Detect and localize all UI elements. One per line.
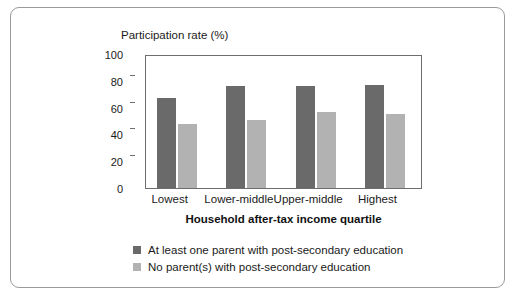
legend-label: At least one parent with post-secondary …: [148, 244, 403, 256]
x-axis-tick-label: Highest: [343, 193, 412, 205]
y-axis-tick-label: 80: [111, 76, 123, 88]
y-axis-tick-mark: [130, 75, 135, 76]
bar-series2: [178, 124, 197, 188]
legend-item: No parent(s) with post-secondary educati…: [133, 258, 403, 275]
bar-group: [215, 56, 284, 188]
chart-legend: At least one parent with post-secondary …: [133, 241, 403, 275]
x-axis-tick-label: Lower-middle: [204, 193, 273, 205]
bar-series2: [317, 112, 336, 188]
bar-group: [146, 56, 215, 188]
chart-title: Participation rate (%): [121, 29, 228, 41]
y-axis-tick-label: 100: [105, 49, 123, 61]
x-axis-title: Household after-tax income quartile: [145, 213, 422, 225]
y-axis-tick-label: 40: [111, 129, 123, 141]
chart-figure-frame: Participation rate (%) Household after-t…: [10, 7, 505, 288]
y-axis-tick-mark: [130, 155, 135, 156]
x-axis-tick-label: Lowest: [135, 193, 204, 205]
plot-area: [145, 55, 422, 189]
bar-series2: [386, 114, 405, 188]
y-axis-tick-label: 20: [111, 156, 123, 168]
y-axis-tick-label: 60: [111, 103, 123, 115]
bar-series1: [157, 98, 176, 188]
bar-series1: [365, 85, 384, 188]
legend-swatch-icon: [133, 246, 141, 254]
bar-groups: [146, 56, 421, 188]
x-axis-tick-label: Upper-middle: [274, 193, 343, 205]
y-axis-tick-mark: [130, 128, 135, 129]
bar-series1: [296, 86, 315, 188]
legend-item: At least one parent with post-secondary …: [133, 241, 403, 258]
bar-group: [285, 56, 354, 188]
bar-group: [354, 56, 423, 188]
bar-series2: [247, 120, 266, 188]
legend-swatch-icon: [133, 263, 141, 271]
bar-series1: [226, 86, 245, 188]
legend-label: No parent(s) with post-secondary educati…: [148, 261, 370, 273]
y-axis-tick-mark: [130, 102, 135, 103]
y-axis-tick-label: 0: [117, 183, 123, 195]
